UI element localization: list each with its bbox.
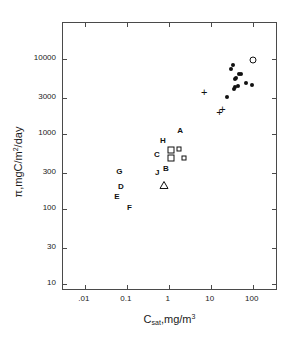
y-tick-left (63, 248, 67, 249)
y-tick-label: 1000 (18, 129, 56, 137)
x-tick-label: 0.1 (120, 295, 131, 303)
y-tick-left (63, 284, 67, 285)
data-point-open-square (168, 154, 175, 161)
y-tick-right (272, 209, 276, 210)
y-tick-right (272, 248, 276, 249)
data-point-open-square (182, 155, 187, 160)
x-axis-title-sub: sat (152, 319, 161, 326)
x-tick-bottom (85, 285, 86, 289)
x-axis-title-main: C (144, 313, 152, 325)
x-tick-label: 10 (205, 295, 214, 303)
data-point-label: B (163, 165, 169, 173)
x-tick-label: .01 (78, 295, 89, 303)
x-tick-bottom (253, 285, 254, 289)
data-point-label: J (155, 169, 159, 177)
data-point-plus: + (219, 103, 225, 114)
x-tick-bottom (211, 285, 212, 289)
data-point-open-square (168, 146, 175, 153)
data-point-label: G (116, 168, 122, 176)
x-axis-title-rest: ,mg/m (161, 313, 192, 325)
x-axis-title-sup: 3 (191, 313, 195, 320)
plot-area: +++ABCDEFGHJ (62, 22, 277, 290)
x-axis-title: Csat,mg/m3 (62, 313, 277, 326)
x-tick-label: 100 (245, 295, 258, 303)
data-point-label: D (118, 183, 124, 191)
x-tick-top (127, 23, 128, 27)
scatter-chart-figure: +++ABCDEFGHJ Csat,mg/m3 π,mgC/m2/day .01… (0, 0, 299, 341)
y-tick-right (272, 134, 276, 135)
data-point-filled-circle (239, 72, 243, 76)
y-tick-left (63, 209, 67, 210)
data-point-filled-circle (234, 76, 238, 80)
y-tick-left (63, 134, 67, 135)
x-tick-top (253, 23, 254, 27)
x-tick-bottom (169, 285, 170, 289)
y-tick-label: 100 (18, 204, 56, 212)
data-point-label: H (160, 137, 166, 145)
y-tick-left (63, 173, 67, 174)
y-tick-left (63, 59, 67, 60)
data-point-label: C (154, 151, 160, 159)
y-tick-right (272, 173, 276, 174)
data-point-open-square (176, 147, 181, 152)
data-point-open-triangle (160, 181, 169, 189)
data-point-filled-circle (229, 67, 233, 71)
y-tick-label: 30 (18, 243, 56, 251)
data-point-label: F (127, 204, 132, 212)
data-point-open-circle (249, 57, 256, 64)
data-point-filled-circle (244, 81, 248, 85)
y-tick-right (272, 284, 276, 285)
data-point-filled-circle (232, 87, 236, 91)
y-tick-label: 3000 (18, 93, 56, 101)
data-point-filled-circle (225, 95, 229, 99)
y-tick-label: 10 (18, 279, 56, 287)
y-axis-title-sup: 2 (12, 147, 19, 151)
data-point-plus: + (201, 87, 207, 98)
x-tick-top (211, 23, 212, 27)
x-tick-top (85, 23, 86, 27)
data-point-filled-circle (250, 83, 254, 87)
x-tick-top (169, 23, 170, 27)
y-tick-right (272, 59, 276, 60)
data-point-filled-circle (231, 63, 235, 67)
x-tick-label: 1 (166, 295, 170, 303)
y-tick-right (272, 98, 276, 99)
y-tick-label: 300 (18, 168, 56, 176)
y-tick-left (63, 98, 67, 99)
data-point-label: A (177, 127, 183, 135)
x-tick-bottom (127, 285, 128, 289)
y-tick-label: 10000 (18, 54, 56, 62)
data-point-label: E (114, 193, 119, 201)
